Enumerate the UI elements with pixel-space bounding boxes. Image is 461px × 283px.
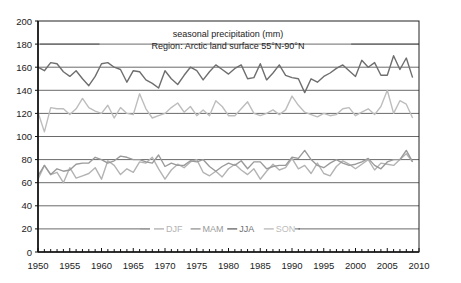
precipitation-chart: 020406080100120140160180200 195019551960… xyxy=(0,0,461,283)
y-tick-label: 180 xyxy=(16,39,32,50)
grid-lines xyxy=(38,44,419,229)
x-tick-label: 2005 xyxy=(377,260,398,271)
chart-title: seasonal precipitation (mm) xyxy=(173,29,284,39)
x-tick-label: 1960 xyxy=(91,260,112,271)
chart-subtitle: Region: Arctic land surface 55°N-90°N xyxy=(152,41,305,51)
y-tick-label: 20 xyxy=(21,223,32,234)
series-son-line xyxy=(38,90,413,132)
y-tick-label: 120 xyxy=(16,108,32,119)
y-tick-label: 0 xyxy=(27,247,32,258)
series-jja-line xyxy=(38,56,413,93)
legend-label-djf: DJF xyxy=(166,224,183,234)
y-tick-label: 40 xyxy=(21,200,32,211)
legend-label-son: SON xyxy=(276,224,296,234)
y-axis: 020406080100120140160180200 xyxy=(16,16,38,258)
y-tick-label: 160 xyxy=(16,62,32,73)
x-tick-label: 1955 xyxy=(59,260,80,271)
x-tick-label: 1965 xyxy=(123,260,144,271)
x-tick-label: 1970 xyxy=(154,260,175,271)
legend-label-mam: MAM xyxy=(203,224,224,234)
legend: DJFMAMJJASON xyxy=(140,223,300,235)
y-tick-label: 80 xyxy=(21,154,32,165)
legend-label-jja: JJA xyxy=(239,224,254,234)
x-tick-label: 2010 xyxy=(408,260,429,271)
y-tick-label: 140 xyxy=(16,85,32,96)
x-tick-label: 1995 xyxy=(313,260,334,271)
y-tick-label: 60 xyxy=(21,177,32,188)
y-tick-label: 100 xyxy=(16,131,32,142)
x-tick-label: 2000 xyxy=(345,260,366,271)
x-tick-label: 1990 xyxy=(281,260,302,271)
x-tick-label: 1950 xyxy=(27,260,48,271)
y-tick-label: 200 xyxy=(16,16,32,27)
x-tick-label: 1975 xyxy=(186,260,207,271)
series-lines xyxy=(38,56,413,183)
x-tick-label: 1985 xyxy=(250,260,271,271)
x-tick-label: 1980 xyxy=(218,260,239,271)
